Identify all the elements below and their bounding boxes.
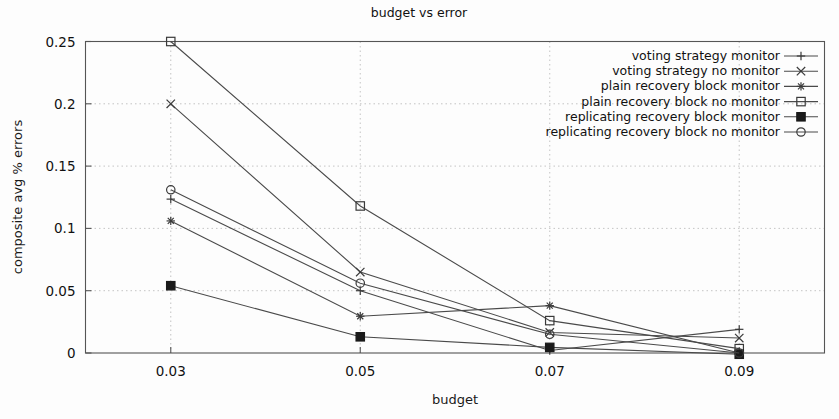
series-line: [171, 190, 739, 353]
data-point-marker-star: [546, 301, 554, 309]
data-point-marker-plus: [735, 325, 743, 333]
data-point-marker-star: [167, 217, 175, 225]
y-tick-label: 0.15: [45, 158, 75, 174]
x-tick-label: 0.07: [535, 363, 565, 379]
series-0: [167, 195, 744, 355]
legend-item[interactable]: voting strategy no monitor: [612, 63, 818, 78]
y-tick-label: 0.05: [45, 283, 75, 299]
data-point-marker-star: [797, 82, 805, 90]
y-tick-label: 0.2: [54, 96, 75, 112]
x-tick-label: 0.09: [724, 363, 754, 379]
legend-label: voting strategy no monitor: [612, 63, 781, 78]
data-point-marker-filled-square: [546, 343, 554, 351]
series-line: [171, 286, 739, 355]
y-tick-label: 0.25: [45, 34, 75, 50]
data-point-marker-cross: [356, 268, 364, 276]
y-axis-label: composite avg % errors: [10, 120, 25, 275]
legend-label: plain recovery block no monitor: [581, 94, 781, 109]
y-tick-label: 0.1: [54, 220, 75, 236]
data-point-marker-filled-square: [356, 333, 364, 341]
x-axis-label: budget: [432, 392, 478, 407]
legend-label: replicating recovery block monitor: [565, 109, 781, 124]
legend-item[interactable]: plain recovery block monitor: [601, 78, 818, 93]
data-point-marker-plus: [797, 52, 805, 60]
y-tick-label: 0: [67, 345, 76, 361]
series-5: [167, 186, 744, 358]
legend-item[interactable]: replicating recovery block monitor: [565, 109, 818, 124]
legend-item[interactable]: voting strategy monitor: [632, 48, 818, 63]
series-line: [171, 199, 739, 350]
chart-container: budget vs error 00.050.10.150.20.25 0.03…: [0, 0, 839, 419]
legend-item[interactable]: plain recovery block no monitor: [581, 94, 818, 109]
data-point-marker-filled-square: [167, 282, 175, 290]
legend-label: voting strategy monitor: [632, 48, 781, 63]
legend-item[interactable]: replicating recovery block no monitor: [546, 124, 818, 139]
x-tick-label: 0.05: [345, 363, 375, 379]
y-axis-ticks: 00.050.10.150.20.25: [45, 34, 91, 362]
chart-title: budget vs error: [371, 5, 468, 20]
legend-label: replicating recovery block no monitor: [546, 124, 781, 139]
legend-label: plain recovery block monitor: [601, 78, 781, 93]
data-point-marker-filled-square: [797, 113, 805, 121]
budget-vs-error-line-chart: budget vs error 00.050.10.150.20.25 0.03…: [0, 0, 839, 419]
x-tick-label: 0.03: [156, 363, 186, 379]
series-4: [167, 282, 744, 359]
data-point-marker-star: [356, 312, 364, 320]
data-point-marker-plus: [167, 195, 175, 203]
chart-legend: voting strategy monitorvoting strategy n…: [546, 48, 818, 139]
